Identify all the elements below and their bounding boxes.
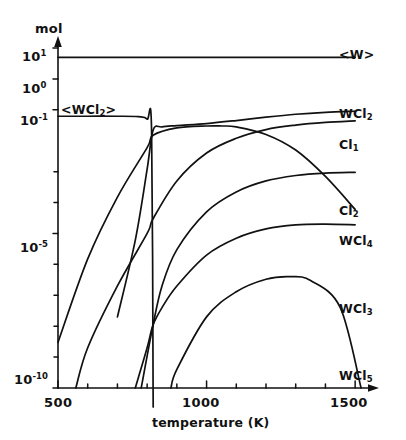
y-axis-arrow (54, 36, 62, 47)
curve-label-cl2: Cl2 (339, 205, 359, 219)
y-tick-label-1e0: 100 (22, 81, 46, 95)
curve-label-cl2-sub: 2 (353, 209, 359, 219)
y-tick-label-1e1: 101 (22, 49, 46, 63)
curve-label-wcl4: WCl4 (339, 235, 373, 249)
curve-label-cl1-base: Cl (339, 137, 353, 152)
curve-wcl3 (135, 224, 355, 388)
curve-wcl4 (58, 126, 355, 343)
curve-wcl2 (58, 108, 153, 407)
x-tick-label-1000: 1000 (182, 396, 220, 409)
curve-label-wcl5-sub: 5 (367, 374, 373, 384)
curve-cl2 (141, 172, 355, 388)
curve-label-wcl5: WCl5 (339, 370, 373, 384)
curve-cl1 (76, 121, 355, 388)
x-axis-arrow (368, 384, 379, 392)
curve-label-wcl2-solid: <WCl2> (61, 104, 116, 118)
y-tick-label-1e-1: 10-1 (20, 113, 48, 127)
curve-label-wcl2: WCl2 (339, 108, 373, 122)
curve-label-wcl2-solid-base: <WCl (61, 102, 100, 117)
axis-layer (53, 36, 379, 392)
curve-label-wcl4-sub: 4 (367, 239, 373, 249)
x-tick-label-500: 500 (44, 396, 72, 409)
y-axis-label: mol (35, 22, 63, 35)
curve-label-wcl4-base: WCl (339, 233, 367, 248)
curve-label-cl1-sub: 1 (353, 143, 359, 153)
curve-label-wcl2-base: WCl (339, 106, 367, 121)
curve-label-wcl3-base: WCl (339, 301, 367, 316)
x-tick-label-1500: 1500 (330, 396, 368, 409)
y-tick-label-1e-5: 10-5 (20, 240, 48, 254)
chart-figure: mol 101 100 10-1 10-5 10-10 500 1000 150… (0, 0, 406, 440)
curve-label-cl2-base: Cl (339, 203, 353, 218)
curve-label-wcl2-sub: 2 (367, 112, 373, 122)
y-tick-label-1e-10: 10-10 (14, 372, 48, 386)
x-axis-ticks (58, 381, 355, 388)
curve-label-wcl3: WCl3 (339, 303, 373, 317)
x-axis-label: temperature (K) (152, 417, 269, 430)
curve-label-wcl5-base: WCl (339, 368, 367, 383)
curve-label-w-solid: <W> (339, 49, 374, 62)
curve-label-cl1: Cl1 (339, 139, 359, 153)
curve-wcl5 (171, 277, 361, 388)
curve-label-wcl3-sub: 3 (367, 307, 373, 317)
curve-label-wcl2-solid-close: > (105, 102, 116, 117)
